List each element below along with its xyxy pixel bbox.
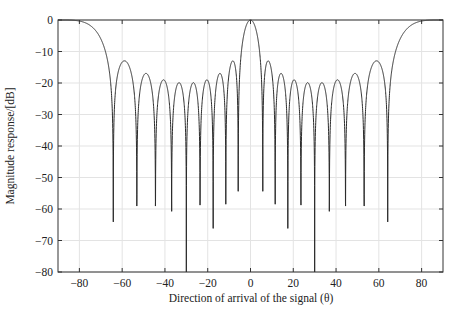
y-tick-label: −50 [35,172,53,184]
y-tick-label: −80 [35,266,53,278]
y-tick-label: −20 [35,77,53,89]
x-tick-label: 20 [288,277,300,289]
y-tick-labels: 0−10−20−30−40−50−60−70−80 [35,14,53,278]
y-tick-label: 0 [47,14,53,26]
y-tick-label: −60 [35,203,53,215]
y-tick-label: −70 [35,235,53,247]
x-tick-label: 80 [416,277,428,289]
x-tick-label: −20 [199,277,217,289]
x-tick-label: 40 [330,277,342,289]
x-tick-label: −40 [156,277,174,289]
x-axis-label: Direction of arrival of the signal (θ) [169,292,334,305]
y-tick-label: −30 [35,109,53,121]
x-tick-label: −60 [113,277,131,289]
x-tick-labels: −80−60−40−20020406080 [70,277,427,289]
grid-lines [58,20,443,272]
line-chart: −80−60−40−20020406080 0−10−20−30−40−50−6… [0,0,465,315]
x-tick-label: 0 [248,277,254,289]
x-tick-label: −80 [70,277,88,289]
x-tick-label: 60 [373,277,385,289]
y-axis-label: Magnitude response/[dB] [4,87,17,204]
y-tick-label: −40 [35,140,53,152]
y-tick-label: −10 [35,46,53,58]
